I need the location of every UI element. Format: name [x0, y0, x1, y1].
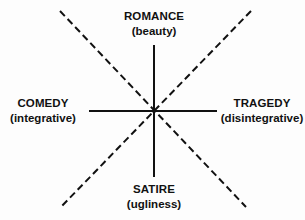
satire-subtitle: (ugliness) [127, 197, 181, 212]
satire-title: SATIRE [127, 182, 181, 197]
diagonal-axis-tl-br [60, 11, 246, 207]
tragedy-subtitle: (disintegrative) [221, 111, 303, 126]
label-right: TRAGEDY (disintegrative) [221, 96, 303, 126]
tragedy-title: TRAGEDY [221, 96, 303, 111]
comedy-subtitle: (integrative) [10, 111, 76, 126]
romance-title: ROMANCE [124, 9, 184, 24]
label-left: COMEDY (integrative) [10, 96, 76, 126]
label-top: ROMANCE (beauty) [124, 9, 184, 39]
romance-subtitle: (beauty) [124, 24, 184, 39]
label-bottom: SATIRE (ugliness) [127, 182, 181, 212]
center-point [152, 109, 156, 113]
comedy-title: COMEDY [10, 96, 76, 111]
genre-diagram: ROMANCE (beauty) SATIRE (ugliness) COMED… [0, 0, 305, 220]
